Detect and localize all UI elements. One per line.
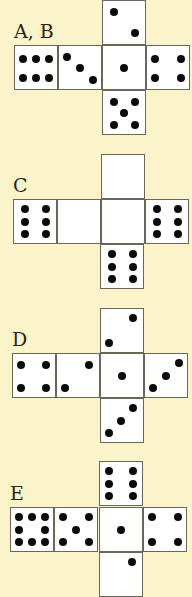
die-face-6 <box>99 461 143 506</box>
pip <box>21 218 29 226</box>
pip <box>128 558 136 566</box>
pip <box>129 480 137 488</box>
pip <box>129 467 137 475</box>
pip <box>105 339 113 347</box>
die-face-4 <box>146 45 190 90</box>
pip <box>151 55 159 63</box>
pip <box>110 98 118 106</box>
die-face-6 <box>145 199 189 244</box>
pip <box>15 513 23 521</box>
pip <box>148 513 156 521</box>
die-face-2 <box>102 0 146 45</box>
pip <box>131 98 139 106</box>
pip <box>129 263 137 271</box>
pip <box>28 538 36 546</box>
die-face-1 <box>99 507 143 552</box>
die-face-4 <box>12 353 56 398</box>
pip <box>177 55 185 63</box>
pip <box>118 372 126 380</box>
die-face-6 <box>14 45 58 90</box>
die-face-3 <box>58 45 102 90</box>
pip <box>105 429 113 437</box>
die-face-0 <box>101 199 145 244</box>
pip <box>110 121 118 129</box>
pip <box>85 538 93 546</box>
pip <box>149 384 157 392</box>
pip <box>89 76 97 84</box>
die-face-3 <box>144 353 188 398</box>
die-face-4 <box>143 507 187 552</box>
pip <box>85 513 93 521</box>
pip <box>105 480 113 488</box>
pip <box>42 218 50 226</box>
pip <box>17 361 25 369</box>
pip <box>45 55 53 63</box>
pip <box>129 492 137 500</box>
pip <box>41 513 49 521</box>
pip <box>72 526 80 534</box>
pip <box>110 8 118 16</box>
net-label: E <box>10 484 24 503</box>
die-face-0 <box>57 199 101 244</box>
pip <box>162 372 170 380</box>
pip <box>45 74 53 82</box>
die-face-6 <box>100 244 144 289</box>
pip <box>15 538 23 546</box>
pip <box>17 384 25 392</box>
pip <box>76 64 84 72</box>
pip <box>19 55 27 63</box>
pip <box>120 109 128 117</box>
pip <box>61 384 69 392</box>
pip <box>129 250 137 258</box>
pip <box>85 361 93 369</box>
die-face-5 <box>102 90 146 135</box>
pip <box>41 538 49 546</box>
pip <box>148 538 156 546</box>
pip <box>32 74 40 82</box>
pip <box>59 538 67 546</box>
pip <box>131 29 139 37</box>
pip <box>153 218 161 226</box>
die-face-5 <box>54 507 98 552</box>
pip <box>42 384 50 392</box>
pip <box>129 314 137 322</box>
pip <box>108 263 116 271</box>
pip <box>15 526 23 534</box>
pip <box>105 467 113 475</box>
pip <box>151 74 159 82</box>
pip <box>177 74 185 82</box>
pip <box>174 205 182 213</box>
pip <box>131 121 139 129</box>
pip <box>42 230 50 238</box>
pip <box>175 359 183 367</box>
pip <box>108 250 116 258</box>
pip <box>32 55 40 63</box>
pip <box>117 417 125 425</box>
die-face-1 <box>99 552 143 597</box>
die-face-8 <box>10 507 54 552</box>
net-label: C <box>13 176 28 195</box>
pip <box>42 205 50 213</box>
pip <box>117 526 125 534</box>
die-face-1 <box>102 45 146 90</box>
net-label: D <box>12 330 27 349</box>
pip <box>59 513 67 521</box>
die-face-1 <box>100 353 144 398</box>
pip <box>42 361 50 369</box>
die-face-2 <box>56 353 100 398</box>
pip <box>105 492 113 500</box>
pip <box>174 513 182 521</box>
pip <box>129 404 137 412</box>
die-face-2 <box>100 308 144 353</box>
pip <box>153 230 161 238</box>
pip <box>21 230 29 238</box>
pip <box>174 230 182 238</box>
net-label: A, B <box>14 22 54 41</box>
pip <box>19 74 27 82</box>
pip <box>174 218 182 226</box>
die-face-3 <box>100 398 144 443</box>
pip <box>21 205 29 213</box>
pip <box>41 526 49 534</box>
pip <box>28 513 36 521</box>
pip <box>174 538 182 546</box>
